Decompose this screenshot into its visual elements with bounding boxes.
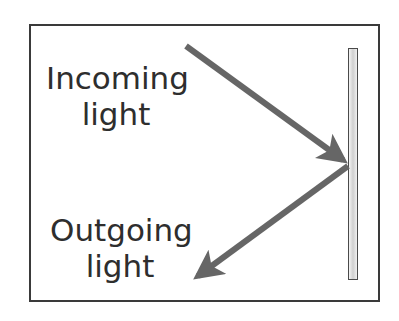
incoming-arrow-icon bbox=[186, 46, 343, 160]
outgoing-arrow-icon bbox=[198, 166, 348, 276]
light-arrows bbox=[0, 0, 399, 321]
